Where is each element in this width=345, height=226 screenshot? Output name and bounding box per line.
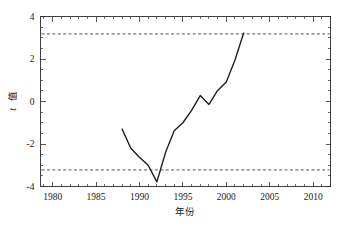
x-tick-label: 1980 [43, 192, 62, 202]
x-tick-label: 2010 [304, 192, 323, 202]
x-tick-label: 1985 [87, 192, 106, 202]
line-chart-svg: 1980198519901995200020052010 -4-2024 年份 … [0, 0, 345, 226]
x-tick-label: 2005 [260, 192, 279, 202]
chart-container: 1980198519901995200020052010 -4-2024 年份 … [0, 0, 345, 226]
y-tick-label: 4 [30, 12, 35, 22]
x-tick-label: 1990 [130, 192, 149, 202]
y-tick-label: 2 [30, 54, 35, 64]
x-axis-title-text: 年份 [175, 206, 195, 217]
y-axis-title-unit: 值 [7, 91, 18, 101]
x-axis-title: 年份 [175, 206, 195, 217]
x-tick-label: 1995 [173, 192, 192, 202]
x-tick-label: 2000 [217, 192, 236, 202]
y-tick-label: 0 [30, 97, 35, 107]
y-tick-label: -2 [27, 139, 35, 149]
y-axis-title-variable: t [7, 108, 18, 111]
y-tick-label: -4 [27, 182, 35, 192]
